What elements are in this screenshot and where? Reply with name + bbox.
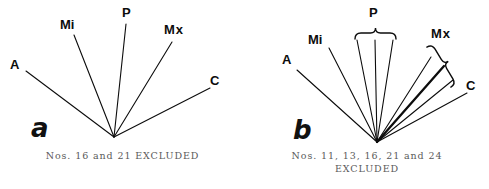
label-b-A: A — [282, 53, 291, 66]
panel_b-Mi-ray — [329, 48, 377, 142]
panel-a-caption: Nos. 16 and 21 EXCLUDED — [0, 150, 245, 163]
panel-b-caption-line-1: Nos. 11, 13, 16, 21 and 24 — [245, 150, 489, 163]
label-a-A: A — [10, 58, 19, 71]
label-a-Mx: Mx — [164, 23, 184, 36]
panel_b-P-ray-2 — [375, 40, 377, 142]
panel-letter-a: a — [31, 115, 49, 141]
label-a-P: P — [122, 6, 131, 19]
label-b-C: C — [466, 79, 475, 92]
panel-b: A Mi P Mx C b Nos. 11, 13, 16, 21 and 24… — [245, 0, 489, 189]
label-a-C: C — [210, 74, 219, 87]
panel-letter-b: b — [293, 117, 312, 143]
label-b-Mx: Mx — [431, 27, 451, 40]
panel_b-p-brace — [355, 28, 396, 39]
panel-a: A Mi P Mx C a Nos. 16 and 21 EXCLUDED — [0, 0, 245, 189]
label-b-P: P — [369, 6, 378, 19]
label-b-Mi: Mi — [308, 33, 322, 46]
label-a-Mi: Mi — [60, 18, 74, 31]
panel_b-Mx-ray-3 — [377, 80, 453, 142]
figure-root: A Mi P Mx C a Nos. 16 and 21 EXCLUDED A … — [0, 0, 489, 189]
panel_b-Mx-ray-1 — [377, 57, 431, 142]
panel_b-C-ray — [377, 93, 467, 142]
panel-b-caption-line-2: EXCLUDED — [245, 163, 489, 176]
panel-b-caption: Nos. 11, 13, 16, 21 and 24 EXCLUDED — [245, 150, 489, 176]
